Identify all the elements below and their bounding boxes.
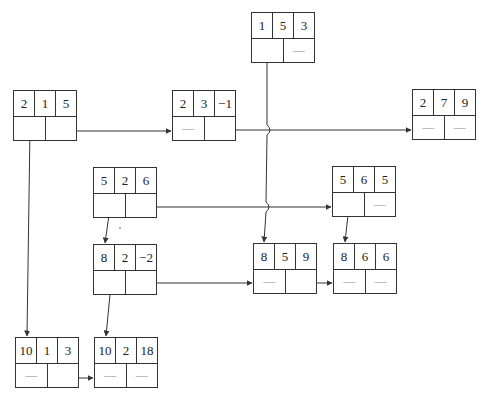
node-info-cell: 18	[137, 338, 157, 363]
node-info-row: 153	[252, 13, 314, 39]
node-down-pointer: —	[173, 117, 205, 140]
node-down-pointer	[252, 39, 284, 62]
node-right-pointer: —	[365, 193, 396, 216]
node-box-n526: 526	[93, 167, 157, 218]
node-pointer-row: ——	[413, 116, 475, 139]
node-right-pointer	[286, 270, 317, 293]
node-info-cell: 2	[413, 90, 434, 115]
node-down-pointer: —	[413, 116, 445, 139]
node-info-cell: 7	[434, 90, 455, 115]
node-info-row: 82−2	[94, 245, 156, 271]
node-box-n23m1: 23−1—	[172, 90, 236, 141]
node-info-cell: 2	[14, 91, 35, 116]
node-pointer-row: —	[254, 270, 316, 293]
node-box-n82m2: 82−2	[93, 244, 157, 295]
node-box-n565: 565—	[332, 166, 396, 217]
node-info-cell: 2	[115, 245, 136, 270]
node-box-n10218: 10218——	[94, 337, 158, 388]
node-pointer-row	[94, 194, 156, 217]
node-info-cell: −1	[215, 91, 235, 116]
node-info-cell: 5	[56, 91, 76, 116]
node-info-row: 215	[14, 91, 76, 117]
node-info-cell: 2	[173, 91, 194, 116]
node-info-cell: 9	[296, 244, 316, 269]
edge-215-to-1013	[27, 128, 30, 336]
node-info-row: 526	[94, 168, 156, 194]
stray-dot	[119, 227, 121, 229]
node-info-cell: 9	[455, 90, 475, 115]
node-right-pointer: —	[445, 116, 476, 139]
node-info-row: 866	[334, 244, 396, 270]
node-info-cell: 6	[355, 244, 376, 269]
node-info-row: 1013	[16, 338, 78, 364]
node-info-cell: 5	[275, 244, 296, 269]
node-info-cell: 3	[58, 338, 78, 363]
node-right-pointer: —	[284, 39, 315, 62]
node-info-cell: 10	[16, 338, 37, 363]
node-info-cell: 1	[37, 338, 58, 363]
node-info-cell: 2	[115, 168, 136, 193]
node-pointer-row: ——	[95, 364, 157, 387]
node-info-cell: 6	[136, 168, 156, 193]
node-down-pointer: —	[16, 364, 48, 387]
node-info-cell: 5	[375, 167, 395, 192]
node-right-pointer: —	[366, 270, 397, 293]
node-down-pointer	[94, 271, 126, 294]
node-pointer-row	[14, 117, 76, 140]
node-box-n279: 279——	[412, 89, 476, 140]
node-pointer-row: ——	[334, 270, 396, 293]
node-pointer-row: —	[333, 193, 395, 216]
node-info-cell: 3	[194, 91, 215, 116]
node-info-cell: 8	[94, 245, 115, 270]
node-box-n1013: 1013—	[15, 337, 79, 388]
node-right-pointer	[126, 271, 157, 294]
node-pointer-row: —	[252, 39, 314, 62]
node-pointer-row: —	[16, 364, 78, 387]
node-down-pointer: —	[334, 270, 366, 293]
node-right-pointer	[205, 117, 236, 140]
node-pointer-row	[94, 271, 156, 294]
node-down-pointer	[14, 117, 46, 140]
node-info-cell: 1	[35, 91, 56, 116]
node-right-pointer: —	[127, 364, 158, 387]
node-down-pointer: —	[254, 270, 286, 293]
node-info-row: 859	[254, 244, 316, 270]
node-box-n153: 153—	[251, 12, 315, 63]
node-info-cell: 2	[116, 338, 137, 363]
node-down-pointer	[94, 194, 126, 217]
node-down-pointer	[333, 193, 365, 216]
node-down-pointer: —	[95, 364, 127, 387]
node-info-cell: 3	[294, 13, 314, 38]
node-info-cell: 8	[334, 244, 355, 269]
node-info-cell: 5	[94, 168, 115, 193]
node-box-n866: 866——	[333, 243, 397, 294]
edge-153-to-859	[264, 54, 270, 242]
node-info-cell: 6	[376, 244, 396, 269]
node-info-cell: 5	[273, 13, 294, 38]
node-info-cell: 10	[95, 338, 116, 363]
node-info-row: 279	[413, 90, 475, 116]
node-info-cell: −2	[136, 245, 156, 270]
node-info-cell: 1	[252, 13, 273, 38]
node-box-n859: 859—	[253, 243, 317, 294]
node-info-row: 565	[333, 167, 395, 193]
node-pointer-row: —	[173, 117, 235, 140]
node-info-row: 23−1	[173, 91, 235, 117]
node-right-pointer	[48, 364, 79, 387]
node-info-cell: 8	[254, 244, 275, 269]
node-box-n215: 215	[13, 90, 77, 141]
node-info-cell: 5	[333, 167, 354, 192]
node-info-row: 10218	[95, 338, 157, 364]
node-right-pointer	[46, 117, 77, 140]
node-right-pointer	[126, 194, 157, 217]
node-info-cell: 6	[354, 167, 375, 192]
